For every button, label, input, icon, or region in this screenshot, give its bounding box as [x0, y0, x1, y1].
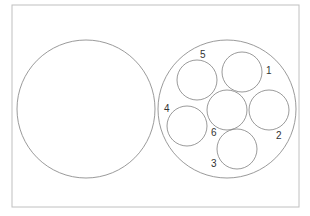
diagram-frame — [12, 5, 299, 207]
circle-label-5: 5 — [200, 49, 206, 60]
circle-label-4: 4 — [164, 103, 170, 114]
diagram-canvas: 123456 — [0, 0, 310, 216]
circle-label-1: 1 — [266, 65, 272, 76]
circle-label-3: 3 — [211, 158, 217, 169]
circle-label-2: 2 — [276, 130, 282, 141]
circle-label-6: 6 — [211, 127, 217, 138]
